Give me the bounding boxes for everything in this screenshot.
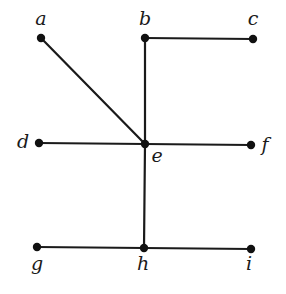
edge-a-e — [41, 38, 145, 144]
node-label-e: e — [151, 144, 162, 166]
edge-h-i — [144, 248, 251, 249]
node-label-a: a — [35, 7, 46, 29]
node-label-c: c — [248, 7, 259, 29]
node-label-g: g — [31, 252, 43, 274]
node-b — [141, 34, 149, 42]
edge-d-e — [39, 143, 145, 144]
node-label-f: f — [259, 133, 271, 155]
node-f — [247, 141, 255, 149]
node-label-h: h — [137, 252, 149, 274]
node-h — [140, 244, 148, 252]
node-label-b: b — [139, 7, 151, 29]
graph-diagram: abcdefghi — [0, 0, 286, 294]
node-g — [33, 243, 41, 251]
edge-b-c — [145, 38, 253, 39]
edge-g-h — [37, 247, 144, 248]
node-a — [37, 34, 45, 42]
node-c — [249, 35, 257, 43]
node-e — [141, 140, 149, 148]
node-d — [35, 139, 43, 147]
edge-e-h — [144, 144, 145, 248]
node-label-i: i — [246, 252, 252, 274]
node-label-d: d — [17, 130, 29, 152]
